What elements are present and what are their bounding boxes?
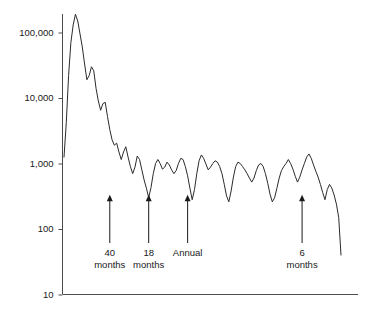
annotation-label-primary: 40 xyxy=(105,247,116,258)
annotation-label-secondary: months xyxy=(94,259,125,270)
y-axis-tick-label: 10 xyxy=(43,289,54,300)
annotation-arrow: 6months xyxy=(287,195,318,270)
y-axis-tick-mark-group xyxy=(59,33,63,295)
y-axis-tick-label: 100 xyxy=(38,223,54,234)
line-chart-canvas: 101001,00010,000100,000 40months18months… xyxy=(0,0,371,317)
y-axis-tick-label: 100,000 xyxy=(19,27,53,38)
annotation-arrow: 18months xyxy=(133,195,164,270)
arrow-head-icon xyxy=(146,195,152,202)
annotation-arrow-group: 40months18monthsAnnual6months xyxy=(94,195,318,270)
annotation-label-secondary: months xyxy=(133,259,164,270)
annotation-label-primary: 18 xyxy=(143,247,154,258)
annotation-label-secondary: months xyxy=(287,259,318,270)
arrow-head-icon xyxy=(299,195,305,202)
arrow-head-icon xyxy=(185,195,191,202)
chart-figure: 101001,00010,000100,000 40months18months… xyxy=(0,0,371,317)
annotation-arrow: 40months xyxy=(94,195,125,270)
arrow-head-icon xyxy=(107,195,113,202)
data-series-line xyxy=(64,14,341,255)
y-axis-tick-label: 10,000 xyxy=(24,92,53,103)
y-axis-tick-label-group: 101001,00010,000100,000 xyxy=(19,27,53,300)
annotation-label-primary: 6 xyxy=(299,247,304,258)
annotation-arrow: Annual xyxy=(173,195,203,258)
y-axis-tick-label: 1,000 xyxy=(30,158,54,169)
annotation-label-primary: Annual xyxy=(173,247,203,258)
